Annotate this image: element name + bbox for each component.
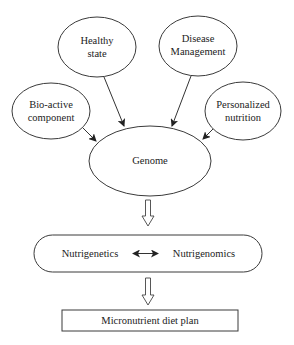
- node-personalized-nutrition: Personalized nutrition: [205, 82, 281, 140]
- genome-label: Genome: [132, 155, 168, 166]
- arrow-personalized-to-genome: [203, 129, 213, 139]
- nutrigenetics-label: Nutrigenetics: [62, 248, 119, 259]
- node-bioactive-component: Bio-active component: [12, 83, 90, 139]
- node-disease-management: Disease Management: [159, 16, 237, 76]
- arrow-bioactive-to-genome: [83, 128, 96, 141]
- arrow-healthy-to-genome: [104, 77, 124, 126]
- personalized-nutrition-label-line2: nutrition: [225, 112, 262, 123]
- node-process: Nutrigenetics Nutrigenomics: [34, 235, 262, 272]
- nutrigenomics-label: Nutrigenomics: [173, 248, 235, 259]
- disease-management-label-line2: Management: [171, 46, 226, 57]
- healthy-state-label-line1: Healthy: [80, 35, 114, 46]
- disease-management-label-line1: Disease: [182, 33, 215, 44]
- healthy-state-label-line2: state: [87, 48, 107, 59]
- micronutrient-diet-plan-label: Micronutrient diet plan: [101, 315, 199, 326]
- hollow-arrow-genome-to-process: [142, 200, 154, 226]
- node-genome: Genome: [89, 126, 211, 196]
- hollow-arrow-process-to-output: [142, 278, 154, 305]
- bioactive-component-label-line2: component: [28, 112, 75, 123]
- healthy-state-ellipse: [58, 17, 136, 77]
- personalized-nutrition-label-line1: Personalized: [216, 99, 270, 110]
- personalized-nutrition-ellipse: [205, 82, 281, 140]
- node-output: Micronutrient diet plan: [62, 310, 238, 331]
- nutrigenomics-diagram: Healthy state Disease Management Bio-act…: [0, 0, 294, 345]
- node-healthy-state: Healthy state: [58, 17, 136, 77]
- bioactive-component-label-line1: Bio-active: [29, 99, 73, 110]
- bioactive-component-ellipse: [12, 83, 90, 139]
- arrow-disease-to-genome: [172, 76, 191, 126]
